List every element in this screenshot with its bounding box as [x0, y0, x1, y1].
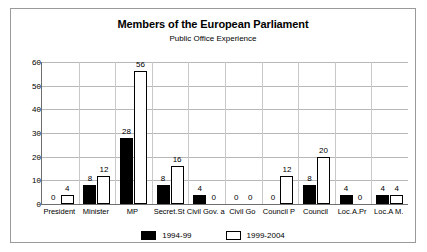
bar — [390, 195, 403, 204]
y-axis-tick-mark — [37, 157, 40, 158]
y-axis-tick-mark — [37, 133, 40, 134]
legend-label: 1994-99 — [162, 231, 191, 240]
bar — [171, 166, 184, 204]
bar-value-label: 0 — [350, 193, 371, 202]
bar — [120, 138, 133, 204]
y-axis: 0102030405060 — [11, 62, 41, 206]
bar-value-label: 12 — [276, 165, 297, 174]
bar-value-label: 56 — [130, 60, 151, 69]
bar — [317, 157, 330, 204]
y-axis-tick-mark — [37, 180, 40, 181]
chart-title: Members of the European Parliament — [11, 18, 415, 30]
chart-subtitle: Public Office Experience — [11, 34, 415, 43]
bar-value-label: 4 — [57, 184, 78, 193]
bar — [303, 185, 316, 204]
y-axis-tick-mark — [37, 204, 40, 205]
legend-entry-series-1: 1994-99 — [141, 231, 191, 240]
bar-value-label: 4 — [336, 184, 357, 193]
legend-label: 1999-2004 — [247, 231, 285, 240]
plot-area: 04812285681640000128204044 — [41, 62, 408, 205]
bar-value-label: 20 — [313, 146, 334, 155]
y-axis-tick-mark — [37, 86, 40, 87]
bar-value-label: 16 — [167, 155, 188, 164]
category-separator — [262, 62, 263, 204]
y-axis-tick-mark — [37, 109, 40, 110]
x-axis-category-label: Loc.A M. — [366, 207, 411, 216]
bar — [61, 195, 74, 204]
legend-swatch-icon — [226, 231, 241, 240]
bar-value-label: 4 — [189, 184, 210, 193]
legend-swatch-icon — [141, 231, 156, 240]
bar — [97, 176, 110, 204]
chart-legend: 1994-99 1999-2004 — [11, 231, 415, 240]
bar-value-label: 4 — [386, 184, 407, 193]
category-separator — [225, 62, 226, 204]
chart-container: Members of the European Parliament Publi… — [10, 8, 416, 243]
bar — [83, 185, 96, 204]
bar-value-label: 0 — [203, 193, 224, 202]
y-axis-tick-mark — [37, 62, 40, 63]
bar-value-label: 12 — [93, 165, 114, 174]
bar — [134, 71, 147, 204]
bar — [280, 176, 293, 204]
bar — [157, 185, 170, 204]
bar — [376, 195, 389, 204]
legend-entry-series-2: 1999-2004 — [226, 231, 285, 240]
bar-value-label: 0 — [240, 193, 261, 202]
